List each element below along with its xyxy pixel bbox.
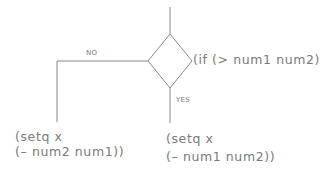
flowchart-canvas: (if (> num1 num2) NO YES (setq x (– num2… bbox=[0, 0, 334, 172]
no-action-line-2: (– num2 num1)) bbox=[15, 146, 124, 159]
yes-action-line-1: (setq x bbox=[166, 133, 214, 146]
no-branch-label: NO bbox=[86, 50, 97, 57]
no-branch-connector bbox=[57, 61, 148, 122]
decision-condition-label: (if (> num1 num2) bbox=[193, 54, 320, 67]
yes-branch-label: YES bbox=[176, 97, 190, 104]
decision-diamond bbox=[148, 34, 192, 88]
yes-action-line-2: (– num1 num2)) bbox=[166, 151, 275, 164]
no-action-line-1: (setq x bbox=[15, 131, 63, 144]
